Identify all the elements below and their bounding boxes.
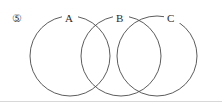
set-label-c: C — [164, 13, 177, 24]
set-label-a: A — [62, 13, 76, 24]
venn-circle-b — [81, 16, 161, 96]
set-label-b: B — [113, 13, 126, 24]
venn-diagram-figure: ⑤ A B C — [0, 0, 222, 102]
venn-circle-a — [30, 16, 110, 96]
venn-circle-c — [117, 16, 197, 96]
item-number-badge: ⑤ — [8, 9, 26, 27]
venn-circles-svg — [0, 0, 222, 102]
bottom-divider — [0, 101, 222, 102]
